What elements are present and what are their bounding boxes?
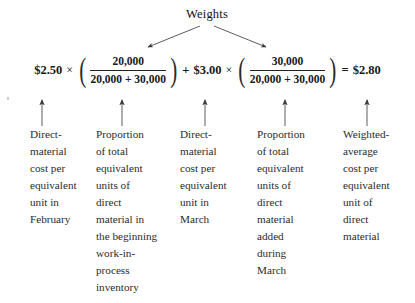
weight-1-numerator: 20,000	[112, 55, 144, 68]
caption-line: units of	[257, 177, 329, 194]
caption-line: process	[96, 262, 176, 279]
caption-line: material	[30, 143, 98, 160]
caption-line: equivalent	[96, 160, 176, 177]
weights-label: Weights	[0, 7, 415, 22]
caption-proportion-added-during-march: Proportionof totalequivalentunits ofdire…	[257, 126, 329, 279]
weighted-average-equation: $2.50 × ( 20,000 20,000 + 30,000 ) + $3.…	[0, 52, 415, 88]
weight-2-group: ( 30,000 20,000 + 30,000 )	[236, 53, 338, 87]
caption-line: material	[257, 211, 329, 228]
equals-operator: =	[339, 63, 352, 78]
caption-line: direct	[343, 211, 413, 228]
direct-material-cost-march-value: $3.00	[192, 63, 222, 78]
weight-2-fraction: 30,000 20,000 + 30,000	[247, 55, 329, 84]
direct-material-cost-february-value: $2.50	[33, 63, 63, 78]
caption-line: the beginning	[96, 228, 176, 245]
caption-line: March	[257, 262, 329, 279]
caption-columns: Direct-materialcost perequivalentunit in…	[0, 126, 415, 303]
weighted-average-cost-diagram: Weights $2.50 × ( 20,000	[0, 0, 415, 303]
caption-line: work-in-	[96, 245, 176, 262]
scan-artifact-speck	[7, 97, 9, 100]
caption-line: February	[30, 211, 98, 228]
caption-line: Direct-	[180, 126, 248, 143]
multiplication-operator-1: ×	[63, 63, 77, 78]
plus-operator: +	[179, 63, 192, 78]
caption-line: during	[257, 245, 329, 262]
weight-1-fraction-bar	[90, 70, 166, 71]
weight-2-fraction-bar	[250, 70, 326, 71]
caption-line: cost per	[343, 160, 413, 177]
caption-line: unit in	[180, 194, 248, 211]
caption-line: cost per	[30, 160, 98, 177]
weights-arrow-right	[214, 26, 266, 47]
caption-line: equivalent	[257, 160, 329, 177]
caption-line: equivalent	[343, 177, 413, 194]
caption-line: Weighted-	[343, 126, 413, 143]
caption-line: material	[180, 143, 248, 160]
caption-line: direct	[96, 194, 176, 211]
caption-line: units of	[96, 177, 176, 194]
caption-line: unit of	[343, 194, 413, 211]
caption-line: Proportion	[257, 126, 329, 143]
caption-line: direct	[257, 194, 329, 211]
caption-line: March	[180, 211, 248, 228]
caption-line: material	[343, 228, 413, 245]
caption-proportion-beginning-wip: Proportionof totalequivalentunits ofdire…	[96, 126, 176, 296]
caption-line: Proportion	[96, 126, 176, 143]
caption-line: cost per	[180, 160, 248, 177]
caption-line: inventory	[96, 279, 176, 296]
weight-1-group: ( 20,000 20,000 + 30,000 )	[77, 53, 179, 87]
weights-label-text: Weights	[186, 7, 228, 21]
caption-direct-material-cost-february: Direct-materialcost perequivalentunit in…	[30, 126, 98, 228]
caption-line: equivalent	[30, 177, 98, 194]
caption-line: Direct-	[30, 126, 98, 143]
weighted-average-result-value: $2.80	[352, 63, 382, 78]
caption-line: unit in	[30, 194, 98, 211]
caption-line: equivalent	[180, 177, 248, 194]
caption-line: added	[257, 228, 329, 245]
caption-weighted-average-cost: Weighted-averagecost perequivalentunit o…	[343, 126, 413, 245]
weight-1-fraction: 20,000 20,000 + 30,000	[87, 55, 169, 84]
weights-arrow-left	[148, 26, 200, 47]
weight-1-denominator: 20,000 + 30,000	[90, 72, 166, 85]
caption-line: of total	[257, 143, 329, 160]
caption-line: of total	[96, 143, 176, 160]
caption-line: average	[343, 143, 413, 160]
caption-direct-material-cost-march: Direct-materialcost perequivalentunit in…	[180, 126, 248, 228]
weight-2-numerator: 30,000	[272, 55, 304, 68]
multiplication-operator-2: ×	[223, 63, 237, 78]
weight-2-denominator: 20,000 + 30,000	[250, 72, 326, 85]
caption-line: material in	[96, 211, 176, 228]
